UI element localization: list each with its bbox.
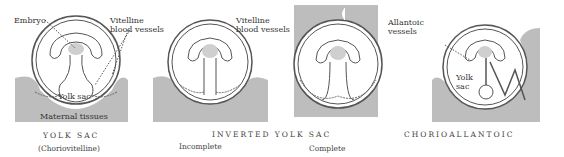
label-maternal: Maternal tissues <box>40 112 108 121</box>
label-yolk: Yolk <box>456 73 473 82</box>
label-embryo: Embryo <box>14 16 46 25</box>
subcaption-choriovitelline: (Choriovitelline) <box>38 144 100 153</box>
label-vitelline-2: blood vessels <box>110 25 164 34</box>
panel-inverted-incomplete <box>153 20 268 122</box>
label-yolk-sac: Yolk sac <box>58 92 91 101</box>
caption-inverted-yolk-sac: INVERTED YOLK SAC <box>212 130 331 139</box>
label-allantoic-2: vessels <box>388 27 417 36</box>
caption-yolk-sac: YOLK SAC <box>43 131 99 140</box>
subcaption-incomplete: Incomplete <box>179 142 222 151</box>
label-sac: sac <box>456 82 469 91</box>
panel-chorioallantoic <box>432 25 540 122</box>
label-vitelline-complete-1: Vitelline <box>236 16 270 25</box>
label-vitelline-complete-2: blood vessels <box>236 25 290 34</box>
caption-chorioallantoic: CHORIOALLANTOIC <box>404 130 514 139</box>
label-allantoic-1: Allantoic <box>388 18 424 27</box>
subcaption-complete: Complete <box>309 144 345 153</box>
label-vitelline-1: Vitelline <box>110 16 144 25</box>
panel-inverted-complete <box>272 5 382 117</box>
